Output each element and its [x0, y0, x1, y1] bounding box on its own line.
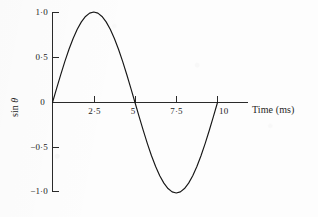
theta-symbol: θ — [9, 98, 20, 103]
figure-sine-wave-plot: 1·0 0·5 0 −0·5 −1·0 2·5 5 7·5 10 Time (m… — [0, 0, 318, 217]
y-tick-label-0-5: 0·5 — [4, 52, 48, 62]
x-axis-title: Time (ms) — [252, 104, 294, 115]
x-tick-label-10: 10 — [219, 106, 239, 116]
y-tick-label-1-0: 1·0 — [4, 7, 48, 17]
y-axis-title: sin θ — [9, 98, 20, 117]
y-axis-title-prefix: sin — [9, 103, 20, 117]
x-tick-label-7-5: 7·5 — [162, 106, 191, 116]
x-tick-label-2-5: 2·5 — [80, 106, 109, 116]
y-tick-label-neg-0-5: −0·5 — [4, 142, 48, 152]
y-tick-label-neg-1-0: −1·0 — [4, 186, 48, 196]
x-tick-label-5: 5 — [123, 106, 143, 116]
